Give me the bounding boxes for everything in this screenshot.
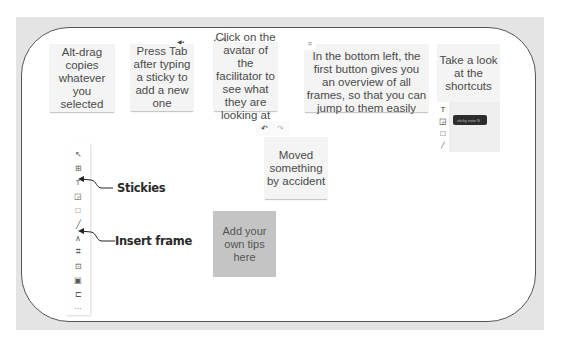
annotation-arrows bbox=[0, 0, 561, 346]
stickies-annotation: Stickies bbox=[117, 181, 165, 195]
insert-frame-annotation: Insert frame bbox=[115, 234, 192, 248]
